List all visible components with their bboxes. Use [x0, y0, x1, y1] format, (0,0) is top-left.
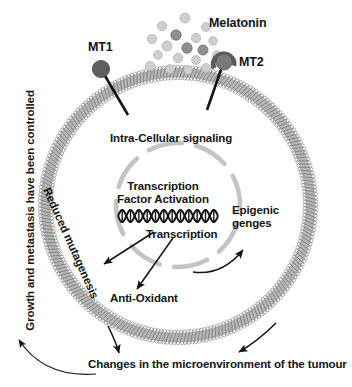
melatonin-molecule — [182, 43, 192, 53]
melatonin-molecule — [166, 65, 175, 74]
label-changes-microenvironment: Changes in the microenvironment of the t… — [88, 358, 347, 371]
label-growth-controlled: Growth and metastasis have been controll… — [24, 82, 37, 338]
label-anti-oxidant: Anti-Oxidant — [110, 292, 178, 305]
label-mt2: MT2 — [239, 55, 264, 69]
melatonin-molecule — [180, 13, 190, 23]
melatonin-molecule — [162, 41, 172, 51]
label-epigenic-line1: Epigenic — [232, 204, 279, 217]
diagram-canvas: Melatonin MT1 MT2 Intra-Cellular signali… — [0, 0, 352, 387]
nucleus-dash-segment — [174, 260, 207, 267]
melatonin-molecule — [198, 45, 208, 55]
melatonin-molecule — [192, 56, 201, 65]
label-mt1: MT1 — [88, 40, 113, 54]
label-tfa-line1: Transcription — [117, 180, 209, 193]
mt2-bound-ligand — [216, 54, 232, 70]
label-epigenic-line2: genges — [232, 217, 279, 230]
label-melatonin: Melatonin — [209, 16, 266, 30]
melatonin-molecule — [184, 66, 192, 74]
mt1-head — [92, 60, 109, 77]
label-transcription: Transcription — [146, 228, 218, 241]
melatonin-molecule — [191, 33, 200, 42]
melatonin-molecule — [154, 51, 163, 60]
label-epigenic-genes: Epigenic genges — [232, 204, 279, 231]
melatonin-molecule — [173, 53, 182, 62]
melatonin-molecule — [202, 64, 211, 73]
melatonin-molecule — [145, 61, 154, 70]
dna-double-helix — [118, 210, 218, 222]
label-tfa-line2: Factor Activation — [117, 193, 209, 206]
arrow-dna-to-anti-oxidant — [137, 238, 173, 289]
melatonin-molecule — [147, 34, 156, 43]
melatonin-molecule — [171, 30, 181, 40]
label-intra-cellular-signaling: Intra-Cellular signaling — [110, 132, 232, 145]
melatonin-molecule — [157, 21, 166, 30]
label-transcription-factor-activation: Transcription Factor Activation — [117, 180, 209, 206]
melatonin-molecule — [209, 37, 217, 45]
arrow-changes-to-growth — [19, 340, 96, 374]
nucleus-dash-segment — [196, 146, 224, 164]
